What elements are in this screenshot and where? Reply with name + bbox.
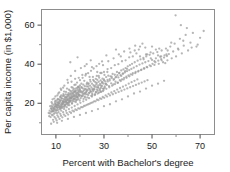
- data-point: [77, 91, 79, 93]
- data-point: [77, 86, 79, 88]
- data-point: [136, 78, 138, 80]
- data-point: [120, 55, 122, 57]
- data-point: [167, 49, 169, 51]
- data-point: [192, 32, 194, 34]
- data-point: [50, 107, 52, 109]
- data-point: [116, 71, 118, 73]
- data-point: [189, 42, 191, 44]
- data-point: [58, 102, 60, 104]
- data-point: [101, 85, 103, 87]
- data-point: [138, 83, 140, 85]
- data-point: [54, 100, 56, 102]
- data-point: [116, 74, 118, 76]
- data-point: [128, 83, 130, 85]
- data-point: [63, 85, 65, 87]
- data-point: [64, 103, 66, 105]
- data-point: [74, 90, 76, 92]
- data-point: [160, 49, 162, 51]
- data-point: [126, 87, 128, 89]
- data-point: [69, 61, 71, 63]
- data-point: [74, 84, 76, 86]
- data-point: [87, 94, 89, 96]
- y-tick-label: 20: [24, 98, 34, 108]
- data-point: [54, 95, 56, 97]
- data-point: [53, 116, 55, 118]
- data-point: [83, 95, 85, 97]
- data-point: [112, 57, 114, 59]
- data-point: [58, 118, 60, 120]
- data-point: [76, 103, 78, 105]
- data-point: [130, 68, 132, 70]
- data-point: [65, 101, 67, 103]
- data-point: [91, 92, 93, 94]
- data-point: [65, 110, 67, 112]
- data-point: [145, 87, 147, 89]
- data-point: [120, 69, 122, 71]
- data-point: [162, 61, 164, 63]
- data-point: [80, 86, 82, 88]
- x-tick-label: 70: [195, 141, 205, 151]
- data-point: [177, 48, 179, 50]
- data-point: [152, 52, 154, 54]
- data-point: [82, 98, 84, 100]
- data-point: [72, 86, 74, 88]
- data-point: [180, 24, 182, 26]
- data-point: [199, 37, 201, 39]
- data-point: [82, 100, 84, 102]
- data-point: [114, 76, 116, 78]
- data-point: [129, 51, 131, 53]
- data-point: [121, 98, 123, 100]
- data-point: [64, 115, 66, 117]
- data-point: [59, 113, 61, 115]
- data-point: [89, 89, 91, 91]
- data-point: [93, 100, 95, 102]
- data-point: [105, 54, 107, 56]
- data-point: [169, 45, 171, 47]
- data-point: [144, 46, 146, 48]
- data-point: [124, 59, 126, 61]
- data-point: [165, 47, 167, 49]
- data-point: [104, 85, 106, 87]
- data-point: [53, 108, 55, 110]
- data-point: [97, 108, 99, 110]
- data-point: [49, 110, 51, 112]
- data-point: [79, 89, 81, 91]
- data-point: [151, 63, 153, 65]
- data-point: [66, 87, 68, 89]
- x-tick-label: 30: [99, 141, 109, 151]
- data-point: [93, 86, 95, 88]
- data-point: [60, 97, 62, 99]
- data-point: [76, 109, 78, 111]
- data-point: [113, 90, 115, 92]
- data-point: [158, 47, 160, 49]
- data-point: [57, 98, 59, 100]
- data-point: [55, 119, 57, 121]
- data-point: [144, 61, 146, 63]
- data-point: [195, 45, 197, 47]
- data-point: [133, 80, 135, 82]
- data-point: [158, 63, 160, 65]
- data-point: [125, 77, 127, 79]
- data-point: [130, 81, 132, 83]
- data-point: [151, 45, 153, 47]
- data-point: [102, 64, 104, 66]
- data-point: [173, 43, 175, 45]
- data-point: [75, 101, 77, 103]
- data-point: [101, 60, 103, 62]
- data-point: [80, 67, 82, 69]
- data-point: [94, 94, 96, 96]
- data-point: [119, 87, 121, 89]
- data-point: [143, 80, 145, 82]
- data-point: [140, 69, 142, 71]
- data-point: [55, 109, 57, 111]
- data-point: [72, 92, 74, 94]
- data-point: [90, 102, 92, 104]
- data-point: [168, 53, 170, 55]
- data-point: [105, 83, 107, 85]
- data-point: [160, 58, 162, 60]
- data-point: [62, 111, 64, 113]
- data-point: [89, 79, 91, 81]
- data-point: [197, 44, 199, 46]
- data-point: [154, 61, 156, 63]
- data-point: [128, 56, 130, 58]
